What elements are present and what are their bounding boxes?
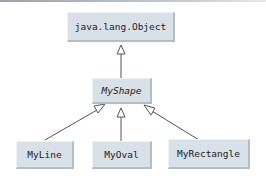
class-name-myrectangle: MyRectangle — [177, 148, 240, 159]
class-box-myline: MyLine — [16, 141, 74, 169]
edge-rectangle-to-shape — [144, 105, 199, 140]
edge-line-to-shape — [45, 104, 105, 140]
class-name-object: java.lang.Object — [75, 21, 167, 32]
class-box-myoval: MyOval — [92, 141, 152, 169]
class-name-myoval: MyOval — [104, 149, 138, 160]
edge-oval-to-shape — [117, 108, 125, 141]
class-box-myshape: MyShape — [92, 78, 152, 104]
class-name-myshape: MyShape — [101, 85, 141, 96]
edge-shape-to-object — [117, 45, 125, 82]
class-name-myline: MyLine — [27, 149, 61, 160]
class-box-myrectangle: MyRectangle — [168, 139, 250, 169]
class-box-java-lang-object: java.lang.Object — [67, 12, 175, 42]
